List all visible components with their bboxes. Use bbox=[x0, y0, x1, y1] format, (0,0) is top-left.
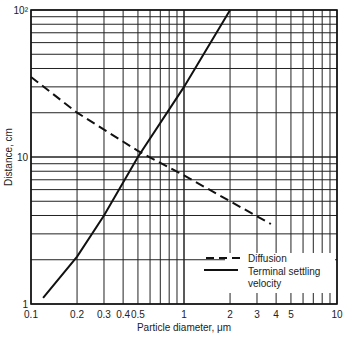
y-tick-label: 10² bbox=[14, 5, 29, 16]
x-tick-label: 0.1 bbox=[24, 309, 38, 320]
x-tick-label: 0.2 bbox=[70, 309, 84, 320]
x-tick-label: 1 bbox=[181, 309, 187, 320]
legend: Diffusion Terminal settling velocity bbox=[204, 253, 335, 293]
chart: 0.10.20.30.40.51234510 11010² Particle d… bbox=[0, 0, 347, 337]
x-tick-label: 0.4 bbox=[116, 309, 130, 320]
x-tick-label: 2 bbox=[227, 309, 233, 320]
x-tick-label: 4 bbox=[273, 309, 279, 320]
y-tick-label: 10 bbox=[17, 152, 29, 163]
legend-settling-label-1: Terminal settling bbox=[248, 266, 320, 277]
x-tick-labels: 0.10.20.30.40.51234510 bbox=[24, 309, 343, 320]
x-tick-label: 5 bbox=[288, 309, 294, 320]
series-terminal-settling-velocity bbox=[43, 10, 230, 298]
x-tick-label: 0.3 bbox=[97, 309, 111, 320]
legend-diffusion-label: Diffusion bbox=[248, 253, 287, 264]
legend-settling-label-2: velocity bbox=[248, 278, 281, 289]
series-diffusion bbox=[31, 77, 271, 224]
y-axis-label: Distance, cm bbox=[3, 128, 14, 186]
y-tick-labels: 11010² bbox=[14, 5, 29, 310]
x-tick-label: 3 bbox=[254, 309, 260, 320]
x-axis-label: Particle diameter, μm bbox=[137, 322, 231, 333]
y-tick-label: 1 bbox=[22, 299, 28, 310]
x-tick-label: 0.5 bbox=[131, 309, 145, 320]
x-tick-label: 10 bbox=[331, 309, 343, 320]
